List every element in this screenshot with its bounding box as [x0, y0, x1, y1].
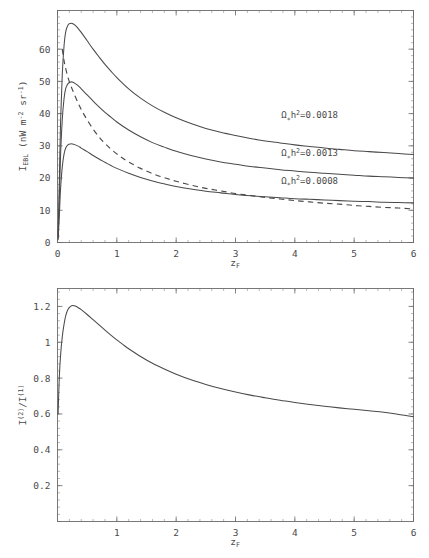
data-curve: [58, 82, 413, 238]
x-tick-label: 2: [173, 527, 179, 538]
ratio-sup-2: (1): [17, 384, 25, 396]
data-curve: [58, 23, 413, 236]
bottom-axis-ticks: [58, 289, 414, 522]
x-tick-label: 4: [292, 248, 298, 259]
top-plot-frame: [58, 11, 414, 243]
y-tick-label: 40: [39, 108, 51, 119]
top-curve-group: [58, 23, 413, 239]
y-tick-label: 20: [39, 172, 51, 183]
curve-annotation: Ω∗h2=0.0013: [281, 147, 338, 161]
bottom-tick-labels: 1234560.20.40.60.811.2: [33, 301, 416, 538]
curve-annotation: Ω∗h2=0.0008: [281, 174, 338, 188]
annotation-value: =0.0018: [300, 110, 338, 120]
y-tick-label: 1.2: [33, 301, 50, 312]
top-axis-ticks: [58, 11, 414, 243]
top-chart-svg: 01234560102030405060 Ω∗h2=0.0018Ω∗h2=0.0…: [0, 0, 429, 280]
svg-text:I(2)/I(1): I(2)/I(1): [17, 384, 28, 425]
x-tick-label: 0: [55, 248, 61, 259]
y-tick-label: 30: [39, 140, 51, 151]
y-axis-exp-1: -2: [17, 111, 25, 119]
y-axis-units-open: (nW m: [17, 119, 28, 154]
y-axis-units-close: ): [17, 81, 28, 87]
y-tick-label: 1: [45, 337, 51, 348]
top-y-axis-title: IEBL (nW m-2 sr-1): [17, 81, 31, 172]
bottom-curve-group: [58, 306, 413, 417]
y-tick-label: 60: [39, 44, 51, 55]
bottom-chart-panel: 1234560.20.40.60.811.2 I(2)/I(1) zF: [0, 275, 429, 558]
y-axis-exp-2: -1: [17, 86, 25, 94]
x-tick-label: 4: [292, 527, 298, 538]
x-tick-label: 2: [173, 248, 179, 259]
y-tick-label: 0.2: [33, 480, 50, 491]
bottom-plot-frame: [58, 289, 414, 522]
x-tick-label: 1: [114, 527, 120, 538]
top-x-axis-title: zF: [230, 257, 240, 270]
curve-annotation: Ω∗h2=0.0018: [281, 109, 338, 123]
bottom-x-axis-title: zF: [230, 536, 240, 549]
annotation-value: =0.0008: [300, 176, 338, 186]
y-axis-symbol-sub: EBL: [22, 154, 30, 166]
y-tick-label: 50: [39, 76, 51, 87]
ebl-figure: 01234560102030405060 Ω∗h2=0.0018Ω∗h2=0.0…: [0, 0, 429, 558]
annotation-value: =0.0013: [300, 148, 338, 158]
ratio-sup-1: (2): [17, 408, 25, 420]
y-tick-label: 0.6: [33, 408, 50, 419]
x-tick-label: 5: [351, 527, 357, 538]
y-axis-units-mid: sr: [17, 94, 28, 111]
x-tick-label: 6: [411, 248, 417, 259]
bottom-chart-svg: 1234560.20.40.60.811.2 I(2)/I(1) zF: [0, 275, 429, 558]
x-tick-label: 6: [411, 527, 417, 538]
data-curve-dashed: [62, 49, 413, 209]
bottom-y-axis-title: I(2)/I(1): [17, 384, 28, 425]
x-tick-label: 1: [114, 248, 120, 259]
bottom-x-axis-sub: F: [236, 541, 240, 549]
top-chart-panel: 01234560102030405060 Ω∗h2=0.0018Ω∗h2=0.0…: [0, 0, 429, 280]
top-x-axis-sub: F: [236, 262, 240, 270]
y-tick-label: 0: [45, 237, 51, 248]
x-tick-label: 5: [351, 248, 357, 259]
y-tick-label: 0.8: [33, 373, 50, 384]
svg-text:IEBL (nW m-2 sr-1): IEBL (nW m-2 sr-1): [17, 81, 31, 172]
y-tick-label: 10: [39, 205, 51, 216]
data-curve: [58, 306, 413, 417]
y-tick-label: 0.4: [33, 444, 50, 455]
data-curve: [58, 144, 413, 240]
top-annotations: Ω∗h2=0.0018Ω∗h2=0.0013Ω∗h2=0.0008: [281, 109, 338, 188]
